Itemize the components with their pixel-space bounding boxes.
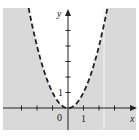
- y-tick-label-1: 1: [58, 87, 63, 98]
- origin-label: 0: [57, 112, 62, 123]
- x-tick-label-1: 1: [81, 113, 86, 124]
- shaded-region: [3, 8, 136, 130]
- y-axis-arrow-icon: [65, 9, 71, 16]
- x-axis-label: x: [129, 113, 135, 124]
- y-axis-label: y: [56, 8, 62, 19]
- chart: y x 0 1 1: [0, 0, 139, 140]
